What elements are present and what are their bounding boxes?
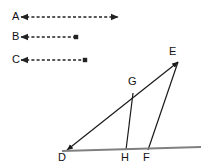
rays-group <box>21 17 118 62</box>
point-label-f: F <box>143 152 150 163</box>
ray-b-endpoint-dot <box>74 35 78 39</box>
segment-de <box>67 62 178 150</box>
segment-gh <box>126 93 133 150</box>
point-label-g: G <box>128 76 137 87</box>
ray-c-endpoint-dot <box>83 58 87 62</box>
ray-label-b: B <box>12 31 19 42</box>
ray-label-c: C <box>12 54 20 65</box>
segment-ef <box>148 62 178 150</box>
point-label-h: H <box>121 152 129 163</box>
point-label-d: D <box>58 152 66 163</box>
ray-label-a: A <box>12 11 19 22</box>
geometry-svg <box>0 0 211 168</box>
baseline <box>62 147 201 151</box>
figure-canvas: ABCDEGHF <box>0 0 211 168</box>
point-label-e: E <box>169 46 176 57</box>
